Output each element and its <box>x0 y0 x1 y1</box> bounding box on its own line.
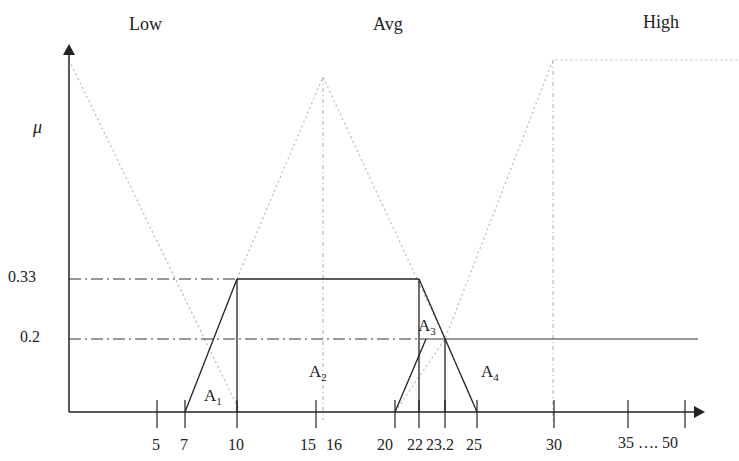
y-level-033: 0.33 <box>8 268 36 286</box>
x-tick-label: 15 <box>300 436 316 454</box>
high-curve <box>395 60 739 412</box>
clipped-output-shape <box>185 279 477 412</box>
set-label-low: Low <box>129 14 162 35</box>
axes <box>63 44 705 418</box>
membership-curves <box>69 60 739 420</box>
area-label-a2: A2 <box>309 362 327 383</box>
area-label-a4: A4 <box>481 362 499 383</box>
area-label-a1: A1 <box>204 386 222 407</box>
x-axis-arrow-icon <box>694 406 705 418</box>
x-tick-label: 22 <box>407 436 423 454</box>
x-tick-label: 16 <box>326 436 342 454</box>
fuzzy-membership-diagram <box>0 0 739 461</box>
x-tick-label: 35 …. 50 <box>618 434 678 452</box>
x-tick-label: 5 <box>152 436 160 454</box>
x-ticks <box>157 400 685 428</box>
x-tick-label: 20 <box>377 436 393 454</box>
x-tick-label: 30 <box>546 436 562 454</box>
set-label-high: High <box>643 12 679 33</box>
avg-curve <box>237 77 477 412</box>
low-curve <box>69 60 240 412</box>
y-axis-arrow-icon <box>63 44 75 55</box>
x-tick-label: 10 <box>228 436 244 454</box>
x-tick-label: 23.2 <box>426 436 454 454</box>
x-tick-label: 25 <box>466 436 482 454</box>
set-label-avg: Avg <box>373 14 403 35</box>
area-label-a3: A3 <box>418 316 436 337</box>
x-tick-label: 7 <box>180 436 188 454</box>
y-axis-label: μ <box>33 117 42 138</box>
y-level-02: 0.2 <box>20 328 40 346</box>
reference-lines <box>69 279 698 339</box>
